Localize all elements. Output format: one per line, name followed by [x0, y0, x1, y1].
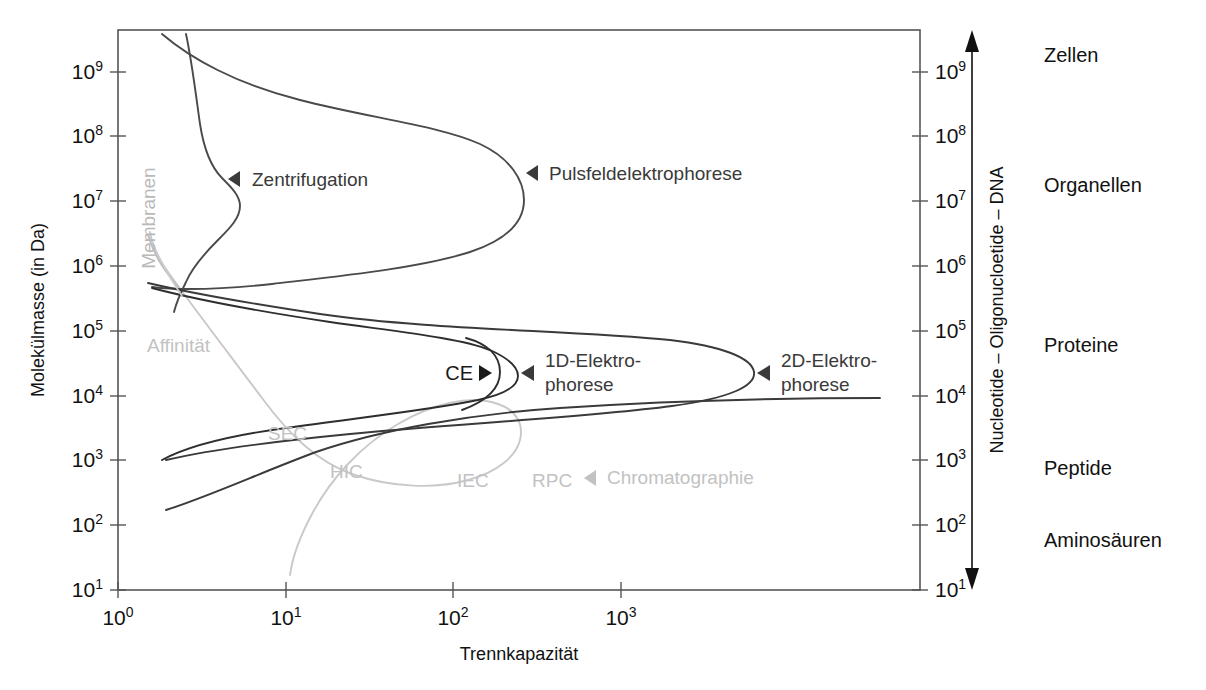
ry-tick-2-base: 10 — [935, 189, 958, 212]
svg-text:108: 108 — [935, 122, 966, 147]
left-axis-tick-labels: 109 108 107 106 105 104 103 102 101 — [72, 58, 103, 601]
ry-tick-8-base: 10 — [935, 578, 958, 601]
y-tick-0-base: 10 — [72, 60, 95, 83]
svg-text:102: 102 — [437, 604, 468, 629]
y-tick-8-exp: 1 — [95, 576, 103, 592]
ry-tick-6-exp: 3 — [958, 446, 966, 462]
x-tick-0-exp: 0 — [126, 604, 134, 620]
chart-svg: 109 108 107 106 105 104 103 102 101 109 … — [0, 0, 1206, 690]
y-axis-title: Molekülmasse (in Da) — [28, 223, 48, 397]
ry-tick-7-exp: 2 — [958, 511, 966, 527]
ry-tick-1-exp: 8 — [958, 122, 966, 138]
y-tick-7-base: 10 — [72, 513, 95, 536]
x-tick-2-exp: 2 — [461, 604, 469, 620]
category-label-organellen: Organellen — [1044, 174, 1142, 196]
right-axis-title: Nucleotide – Oligonucloetide – DNA — [987, 166, 1007, 453]
y-tick-5-exp: 4 — [95, 382, 103, 398]
ry-tick-1-base: 10 — [935, 124, 958, 147]
svg-text:105: 105 — [935, 317, 966, 342]
y-tick-2-exp: 7 — [95, 187, 103, 203]
category-label-proteine: Proteine — [1044, 334, 1119, 356]
ry-tick-6-base: 10 — [935, 448, 958, 471]
ry-tick-4-exp: 5 — [958, 317, 966, 333]
ry-tick-5-base: 10 — [935, 384, 958, 407]
svg-text:103: 103 — [935, 446, 966, 471]
annotation-affinitaet-label: Affinität — [147, 335, 211, 356]
figure-root: 109 108 107 106 105 104 103 102 101 109 … — [0, 0, 1206, 690]
ry-tick-5-exp: 4 — [958, 382, 966, 398]
x-tick-3-exp: 3 — [629, 604, 637, 620]
x-tick-1-exp: 1 — [294, 604, 302, 620]
x-tick-1-base: 10 — [270, 606, 293, 629]
svg-text:109: 109 — [72, 58, 103, 83]
svg-text:104: 104 — [72, 382, 103, 407]
svg-text:100: 100 — [102, 604, 133, 629]
y-tick-6-exp: 3 — [95, 446, 103, 462]
category-label-aminosaeuren: Aminosäuren — [1044, 529, 1162, 551]
annotation-chromatographie-label: Chromatographie — [607, 467, 754, 488]
svg-text:109: 109 — [935, 58, 966, 83]
svg-text:101: 101 — [935, 576, 966, 601]
x-tick-0-base: 10 — [102, 606, 125, 629]
y-tick-8-base: 10 — [72, 578, 95, 601]
y-tick-0-exp: 9 — [95, 58, 103, 74]
svg-text:102: 102 — [935, 511, 966, 536]
annotation-zentrifugation-label: Zentrifugation — [252, 169, 368, 190]
y-tick-7-exp: 2 — [95, 511, 103, 527]
annotation-sec-label: SEC — [268, 423, 307, 444]
annotation-chromatographie: Chromatographie — [584, 467, 754, 488]
y-tick-5-base: 10 — [72, 384, 95, 407]
right-axis-tick-labels: 109 108 107 106 105 104 103 102 101 — [935, 58, 966, 601]
x-tick-2-base: 10 — [437, 606, 460, 629]
arrow-up-icon — [965, 30, 979, 52]
ry-tick-2-exp: 7 — [958, 187, 966, 203]
category-labels: Zellen Organellen Proteine Peptide Amino… — [1044, 44, 1162, 551]
annotation-iec-label: IEC — [457, 470, 489, 491]
annotation-ce-label: CE — [445, 362, 473, 384]
y-tick-4-exp: 5 — [95, 317, 103, 333]
svg-text:106: 106 — [935, 252, 966, 277]
svg-text:107: 107 — [72, 187, 103, 212]
x-tick-3-base: 10 — [605, 606, 628, 629]
y-tick-3-base: 10 — [72, 254, 95, 277]
y-tick-1-base: 10 — [72, 124, 95, 147]
ry-tick-4-base: 10 — [935, 319, 958, 342]
svg-text:106: 106 — [72, 252, 103, 277]
y-tick-3-exp: 6 — [95, 252, 103, 268]
arrow-down-icon — [965, 568, 979, 590]
x-axis-title: Trennkapazität — [460, 644, 578, 664]
ry-tick-8-exp: 1 — [958, 576, 966, 592]
svg-text:105: 105 — [72, 317, 103, 342]
annotation-pulsfeldelektrophorese-label: Pulsfeldelektrophorese — [549, 163, 742, 184]
y-tick-4-base: 10 — [72, 319, 95, 342]
category-axis-arrow — [965, 30, 979, 590]
y-tick-1-exp: 8 — [95, 122, 103, 138]
y-tick-6-base: 10 — [72, 448, 95, 471]
ry-tick-7-base: 10 — [935, 513, 958, 536]
ry-tick-0-exp: 9 — [958, 58, 966, 74]
svg-text:101: 101 — [270, 604, 301, 629]
ry-tick-0-base: 10 — [935, 60, 958, 83]
ry-tick-3-exp: 6 — [958, 252, 966, 268]
svg-text:102: 102 — [72, 511, 103, 536]
plot-frame — [118, 30, 920, 590]
svg-text:101: 101 — [72, 576, 103, 601]
x-axis-tick-labels: 100 101 102 103 — [102, 604, 636, 629]
annotation-rpc-label: RPC — [532, 470, 572, 491]
svg-text:103: 103 — [605, 604, 636, 629]
category-label-peptide: Peptide — [1044, 457, 1112, 479]
svg-text:107: 107 — [935, 187, 966, 212]
annotation-pulsfeldelektrophorese: Pulsfeldelektrophorese — [526, 163, 742, 184]
svg-text:104: 104 — [935, 382, 966, 407]
ry-tick-3-base: 10 — [935, 254, 958, 277]
annotation-hic-label: HIC — [330, 461, 363, 482]
annotation-membranen-label: Membranen — [138, 167, 159, 268]
svg-text:108: 108 — [72, 122, 103, 147]
y-tick-2-base: 10 — [72, 189, 95, 212]
svg-text:103: 103 — [72, 446, 103, 471]
category-label-zellen: Zellen — [1044, 44, 1098, 66]
